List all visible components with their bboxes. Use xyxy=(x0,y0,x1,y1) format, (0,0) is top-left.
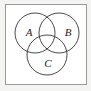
venn-label-c: C xyxy=(44,57,52,69)
venn-label-b: B xyxy=(65,26,72,38)
figure-canvas: A B C xyxy=(0,0,91,91)
venn-diagram-figure: A B C xyxy=(0,0,91,91)
venn-label-a: A xyxy=(25,26,33,38)
venn-diagram-svg: A B C xyxy=(0,0,91,91)
